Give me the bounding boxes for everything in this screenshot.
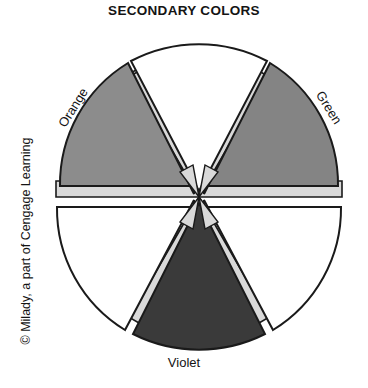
secondary-colors-figure: SECONDARY COLORS © Milady, a part of Cen… [0,0,368,388]
color-wheel-diagram [0,0,368,388]
wedge-label-violet: Violet [149,355,219,370]
